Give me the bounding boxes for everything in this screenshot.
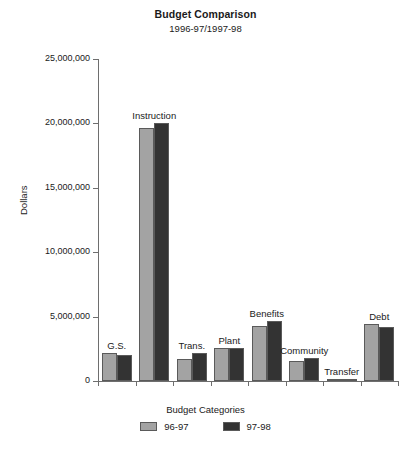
category-label: Benefits — [250, 308, 284, 319]
x-tick-mark — [211, 381, 212, 386]
plot-area: 25,000,00020,000,00015,000,00010,000,000… — [98, 59, 398, 381]
y-tick-label: 20,000,000 — [45, 117, 90, 127]
x-tick-mark — [248, 381, 249, 386]
bar-g-s-96-97 — [102, 353, 117, 381]
x-tick-mark — [361, 381, 362, 386]
y-axis-line — [98, 59, 99, 381]
y-tick-mark — [93, 252, 98, 253]
category-label: G.S. — [107, 340, 126, 351]
bar-community-97-98 — [304, 358, 319, 381]
x-tick-mark — [98, 381, 99, 386]
bar-group: G.S. — [102, 59, 132, 381]
x-tick-mark — [136, 381, 137, 386]
y-tick-label: 5,000,000 — [50, 311, 90, 321]
x-tick-mark — [323, 381, 324, 386]
y-tick-mark — [93, 59, 98, 60]
legend-item-96-97[interactable]: 96-97 — [140, 421, 188, 432]
legend-label: 97-98 — [247, 421, 271, 432]
bar-debt-97-98 — [379, 327, 394, 381]
bar-plant-97-98 — [229, 348, 244, 381]
chart-subtitle: 1996-97/1997-98 — [0, 23, 411, 34]
category-label: Instruction — [132, 110, 176, 121]
y-tick-mark — [93, 123, 98, 124]
legend-swatch — [223, 422, 240, 431]
bar-group: Instruction — [139, 59, 169, 381]
bar-benefits-96-97 — [252, 326, 267, 381]
x-axis-title: Budget Categories — [0, 404, 411, 415]
bar-trans-96-97 — [177, 359, 192, 381]
bar-trans-97-98 — [192, 353, 207, 381]
y-tick-label: 25,000,000 — [45, 53, 90, 63]
bar-group: Trans. — [177, 59, 207, 381]
bar-group: Benefits — [252, 59, 282, 381]
x-tick-mark — [398, 381, 399, 386]
bar-transfer-96-97 — [327, 379, 342, 381]
y-tick-label: 15,000,000 — [45, 182, 90, 192]
bar-group: Transfer — [327, 59, 357, 381]
y-axis-title: Dollars — [18, 185, 29, 215]
chart-legend: 96-9797-98 — [0, 421, 411, 432]
chart-title: Budget Comparison — [0, 8, 411, 20]
y-tick-label: 10,000,000 — [45, 246, 90, 256]
legend-item-97-98[interactable]: 97-98 — [223, 421, 271, 432]
bar-group: Debt — [364, 59, 394, 381]
bar-instruction-96-97 — [139, 128, 154, 381]
category-label: Plant — [218, 335, 240, 346]
x-tick-mark — [286, 381, 287, 386]
bar-instruction-97-98 — [154, 123, 169, 381]
legend-label: 96-97 — [164, 421, 188, 432]
y-tick-mark — [93, 188, 98, 189]
bar-debt-96-97 — [364, 324, 379, 381]
bar-group: Community — [289, 59, 319, 381]
bar-plant-96-97 — [214, 348, 229, 381]
category-label: Transfer — [324, 366, 359, 377]
legend-swatch — [140, 422, 157, 431]
y-tick-label: 0 — [85, 375, 90, 385]
category-label: Trans. — [178, 340, 205, 351]
category-label: Community — [280, 345, 328, 356]
bar-community-96-97 — [289, 361, 304, 381]
y-tick-mark — [93, 317, 98, 318]
bar-g-s-97-98 — [117, 355, 132, 381]
x-tick-mark — [173, 381, 174, 386]
category-label: Debt — [369, 311, 389, 322]
bar-group: Plant — [214, 59, 244, 381]
bar-transfer-97-98 — [342, 379, 357, 381]
